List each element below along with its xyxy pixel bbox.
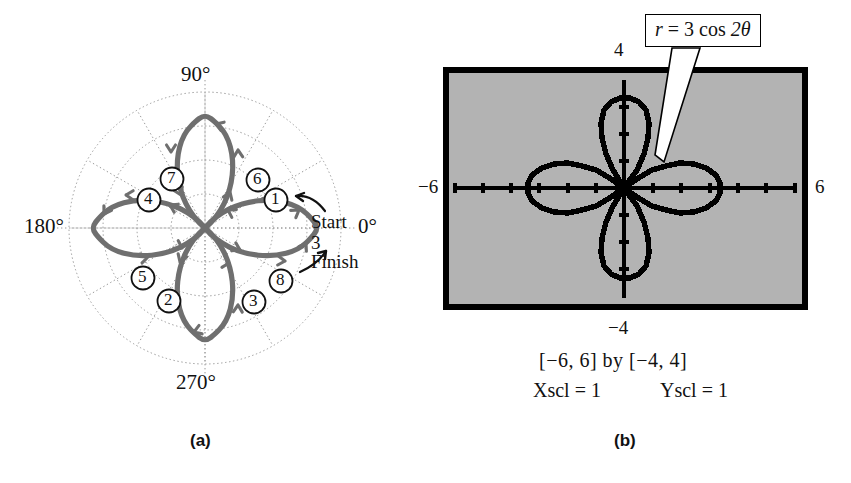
equation-coefficient: 3 [684,18,694,40]
figure-panel-b: r = 3 cos 2θ 4 −4 −6 6 [−6, 6] by [−4, 4… [0,0,851,483]
equation-equals: = [668,18,679,40]
panel-b-caption: (b) [614,432,636,449]
calc-axis-label-left: −6 [418,177,438,196]
calc-axis-label-top: 4 [614,40,624,59]
calc-axis-label-bottom: −4 [608,318,628,337]
calc-xscl-line: Xscl = 1 [533,380,601,400]
calc-window-line: [−6, 6] by [−4, 4] [539,350,687,370]
calculator-screen-svg [0,0,851,483]
equation-r-symbol: r [655,18,663,40]
equation-argument: 2θ [731,18,751,40]
equation-callout-box: r = 3 cos 2θ [645,14,761,47]
calc-axis-label-right: 6 [815,177,825,196]
calc-yscl-line: Yscl = 1 [660,380,728,400]
equation-function: cos [699,18,726,40]
